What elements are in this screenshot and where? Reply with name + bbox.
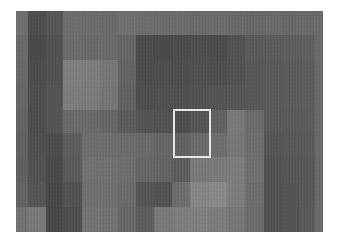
pixel-cell	[63, 60, 82, 85]
pixel-cell	[154, 11, 172, 35]
pixel-cell	[16, 60, 28, 85]
pixel-cell	[46, 35, 63, 60]
pixel-cell	[172, 11, 190, 35]
pixel-cell	[63, 85, 82, 110]
pixel-cell	[245, 110, 264, 133]
pixel-cell	[136, 35, 154, 60]
pixel-cell	[209, 110, 227, 133]
pixel-cell	[118, 11, 136, 35]
pixel-cell	[209, 60, 227, 85]
pixel-cell	[100, 133, 118, 157]
pixel-cell	[28, 157, 46, 182]
pixel-cell	[264, 133, 282, 157]
pixel-cell	[63, 35, 82, 60]
pixel-cell	[190, 35, 209, 60]
pixel-cell	[209, 157, 227, 182]
pixel-cell	[172, 85, 190, 110]
pixel-cell	[264, 85, 282, 110]
pixel-cell	[209, 85, 227, 110]
pixel-cell	[136, 11, 154, 35]
pixel-cell	[118, 157, 136, 182]
pixel-cell	[136, 182, 154, 207]
pixel-cell	[154, 35, 172, 60]
pixel-cell	[245, 157, 264, 182]
pixel-cell	[227, 85, 245, 110]
pixel-cell	[190, 85, 209, 110]
pixel-cell	[100, 11, 118, 35]
pixel-cell	[300, 60, 315, 85]
pixel-cell	[245, 207, 264, 232]
pixel-cell	[16, 35, 28, 60]
pixel-cell	[227, 35, 245, 60]
pixel-cell	[154, 60, 172, 85]
pixel-cell	[300, 182, 315, 207]
pixel-cell	[16, 110, 28, 133]
pixel-cell	[172, 35, 190, 60]
pixel-cell	[154, 133, 172, 157]
pixel-cell	[16, 157, 28, 182]
pixel-cell	[282, 60, 300, 85]
pixel-cell	[118, 35, 136, 60]
pixel-cell	[63, 11, 82, 35]
pixel-cell	[136, 207, 154, 232]
pixel-cell	[63, 110, 82, 133]
pixel-cell	[16, 11, 28, 35]
pixel-cell	[209, 133, 227, 157]
pixel-cell	[300, 85, 315, 110]
pixel-cell	[154, 157, 172, 182]
pixel-cell	[100, 110, 118, 133]
pixel-cell	[82, 157, 100, 182]
highlight-box[interactable]	[173, 109, 211, 158]
pixel-cell	[82, 85, 100, 110]
pixel-cell	[63, 207, 82, 232]
pixel-cell	[264, 35, 282, 60]
pixel-cell	[300, 207, 315, 232]
pixel-cell	[245, 35, 264, 60]
pixel-cell	[209, 11, 227, 35]
pixel-cell	[209, 182, 227, 207]
pixel-cell	[118, 182, 136, 207]
pixel-cell	[245, 85, 264, 110]
pixel-cell	[227, 11, 245, 35]
pixel-cell	[28, 182, 46, 207]
pixel-cell	[282, 207, 300, 232]
pixel-cell	[154, 85, 172, 110]
pixel-cell	[16, 85, 28, 110]
pixel-cell	[118, 207, 136, 232]
pixel-cell	[82, 110, 100, 133]
pixel-cell	[282, 157, 300, 182]
pixel-cell	[209, 35, 227, 60]
pixel-cell	[190, 60, 209, 85]
pixel-cell	[118, 60, 136, 85]
pixel-cell	[100, 207, 118, 232]
pixel-cell	[227, 207, 245, 232]
pixel-cell	[136, 60, 154, 85]
pixel-cell	[100, 85, 118, 110]
pixel-cell	[46, 182, 63, 207]
mosaic-image	[16, 11, 323, 232]
pixel-cell	[227, 133, 245, 157]
pixel-cell	[190, 182, 209, 207]
pixel-grid	[16, 11, 323, 232]
pixel-cell	[46, 207, 63, 232]
pixel-cell	[190, 207, 209, 232]
pixel-cell	[282, 85, 300, 110]
pixel-cell	[264, 157, 282, 182]
pixel-cell	[82, 11, 100, 35]
pixel-cell	[264, 60, 282, 85]
pixel-cell	[264, 182, 282, 207]
pixel-cell	[82, 182, 100, 207]
pixel-cell	[136, 110, 154, 133]
pixel-cell	[118, 85, 136, 110]
pixel-cell	[300, 157, 315, 182]
pixel-cell	[136, 157, 154, 182]
pixel-cell	[209, 207, 227, 232]
pixel-cell	[172, 157, 190, 182]
pixel-cell	[46, 85, 63, 110]
pixel-cell	[16, 133, 28, 157]
pixel-cell	[63, 157, 82, 182]
pixel-cell	[28, 60, 46, 85]
pixel-cell	[227, 182, 245, 207]
pixel-cell	[172, 182, 190, 207]
pixel-cell	[46, 60, 63, 85]
